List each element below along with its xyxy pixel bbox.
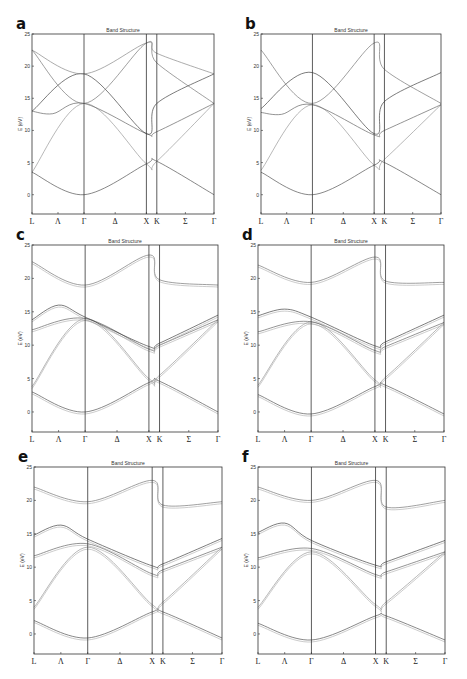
band-line: [32, 255, 218, 285]
band-structure-plot: 0510152025E (eV)LΛΓΔXKΣΓ: [0, 450, 235, 679]
panel-title: Band Structure: [32, 27, 214, 33]
x-tick-label: Σ: [413, 657, 418, 666]
band-structure-plot: 0510152025E (eV)LΛΓΔXKΣΓ: [235, 228, 467, 450]
x-tick-label: Σ: [410, 217, 415, 226]
y-axis-label: E (eV): [19, 553, 25, 568]
band-line: [34, 480, 222, 506]
band-line: [32, 74, 214, 135]
y-tick-label: 5: [253, 376, 256, 382]
x-tick-label: L: [30, 217, 35, 226]
x-tick-label: X: [144, 217, 150, 226]
plot-frame: [261, 34, 441, 214]
y-tick-label: 0: [27, 409, 30, 415]
y-tick-label: 0: [256, 192, 259, 198]
panel-letter: f: [242, 450, 249, 465]
panel-title: Band Structure: [258, 460, 445, 466]
x-tick-label: Δ: [114, 435, 119, 444]
band-line-split: [258, 482, 445, 510]
x-tick-label: X: [372, 435, 378, 444]
y-tick-label: 5: [27, 160, 30, 166]
y-tick-label: 20: [250, 275, 256, 281]
y-tick-label: 10: [250, 342, 256, 348]
panel-letter: c: [16, 228, 25, 243]
y-axis-label: E (eV): [243, 331, 249, 346]
x-tick-label: Γ: [443, 657, 448, 666]
band-line: [261, 72, 441, 134]
x-tick-label: Γ: [220, 657, 225, 666]
y-axis-label: E (eV): [246, 117, 252, 132]
y-axis-label: E (eV): [243, 553, 249, 568]
x-tick-label: K: [157, 435, 163, 444]
band-line-split: [34, 482, 222, 508]
x-tick-label: K: [382, 217, 388, 226]
x-tick-label: Γ: [439, 217, 444, 226]
plot-frame: [258, 467, 445, 654]
band-line-split: [258, 554, 445, 612]
band-line: [34, 609, 222, 638]
panel-e: 0510152025E (eV)LΛΓΔXKΣΓeBand Structure: [0, 450, 235, 679]
y-tick-label: 20: [24, 63, 30, 69]
x-tick-label: Γ: [442, 435, 447, 444]
x-tick-label: Δ: [341, 217, 346, 226]
y-tick-label: 15: [26, 531, 32, 537]
band-line: [261, 160, 441, 195]
y-tick-label: 20: [26, 497, 32, 503]
y-tick-label: 15: [24, 95, 30, 101]
x-tick-label: Γ: [216, 435, 221, 444]
band-line: [32, 103, 214, 172]
band-line-split: [258, 525, 445, 569]
panel-f: 0510152025E (eV)LΛΓΔXKΣΓfBand Structure: [235, 450, 467, 679]
x-tick-label: Γ: [212, 217, 217, 226]
x-tick-label: K: [160, 657, 166, 666]
band-line: [32, 41, 214, 103]
y-tick-label: 5: [27, 376, 30, 382]
y-tick-label: 10: [24, 342, 30, 348]
band-line: [261, 105, 441, 171]
y-tick-label: 5: [29, 598, 32, 604]
band-line-split: [258, 259, 444, 285]
band-line: [32, 158, 214, 194]
band-structure-plot: 0510152025E (eV)LΛΓΔXKΣΓ: [0, 228, 235, 450]
band-line: [32, 305, 218, 349]
x-tick-label: L: [32, 657, 37, 666]
x-tick-label: Σ: [183, 217, 188, 226]
y-tick-label: 25: [250, 464, 256, 470]
x-tick-label: L: [30, 435, 35, 444]
x-tick-label: K: [383, 435, 389, 444]
y-tick-label: 10: [250, 564, 256, 570]
y-tick-label: 0: [253, 409, 256, 415]
y-tick-label: 0: [27, 192, 30, 198]
x-tick-label: K: [154, 217, 160, 226]
x-tick-label: Λ: [55, 217, 61, 226]
band-structure-plot: 0510152025E (eV)LΛΓΔXKΣΓ: [235, 0, 467, 228]
band-line: [261, 42, 441, 103]
panel-letter: e: [18, 450, 28, 465]
y-tick-label: 15: [250, 309, 256, 315]
panel-title: Band Structure: [258, 238, 444, 244]
x-tick-label: Δ: [341, 657, 346, 666]
plot-frame: [34, 467, 222, 654]
x-tick-label: L: [256, 435, 261, 444]
panel-title: Band Structure: [261, 27, 441, 33]
band-line-split: [258, 550, 445, 578]
band-structure-plot: 0510152025E (eV)LΛΓΔXKΣΓ: [235, 450, 467, 679]
x-tick-label: K: [383, 657, 389, 666]
x-tick-label: Γ: [310, 217, 315, 226]
band-line-split: [258, 324, 444, 388]
x-tick-label: Λ: [282, 435, 288, 444]
band-line-split: [32, 257, 218, 287]
y-axis-label: E (eV): [17, 117, 23, 132]
x-tick-label: Λ: [58, 657, 64, 666]
x-tick-label: Γ: [82, 217, 87, 226]
panel-a: 0510152025E (eV)LΛΓΔXKΣΓaBand Structure: [0, 0, 235, 228]
x-tick-label: L: [259, 217, 264, 226]
panel-letter: a: [16, 17, 26, 32]
x-tick-label: X: [371, 217, 377, 226]
x-tick-label: Σ: [412, 435, 417, 444]
panel-letter: d: [242, 228, 253, 243]
panel-b: 0510152025E (eV)LΛΓΔXKΣΓbBand Structure: [235, 0, 467, 228]
y-tick-label: 20: [253, 63, 259, 69]
y-tick-label: 20: [250, 497, 256, 503]
panel-d: 0510152025E (eV)LΛΓΔXKΣΓdBand Structure: [235, 228, 467, 450]
x-tick-label: Γ: [83, 435, 88, 444]
